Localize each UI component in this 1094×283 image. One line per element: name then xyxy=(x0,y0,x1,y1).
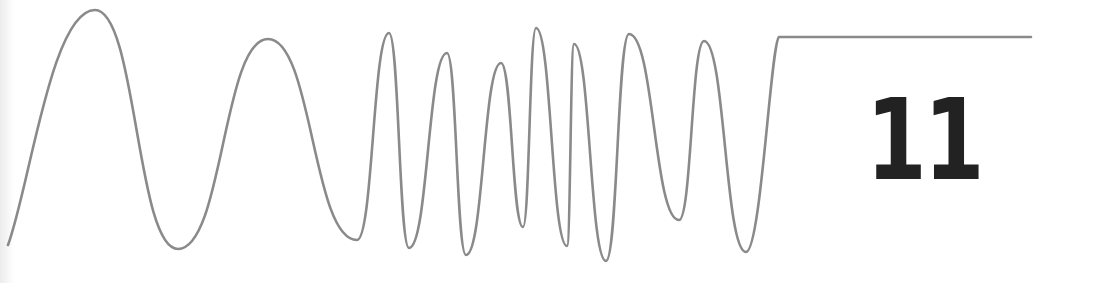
figure: 11 xyxy=(0,0,1094,283)
figure-number: 11 xyxy=(866,96,981,184)
